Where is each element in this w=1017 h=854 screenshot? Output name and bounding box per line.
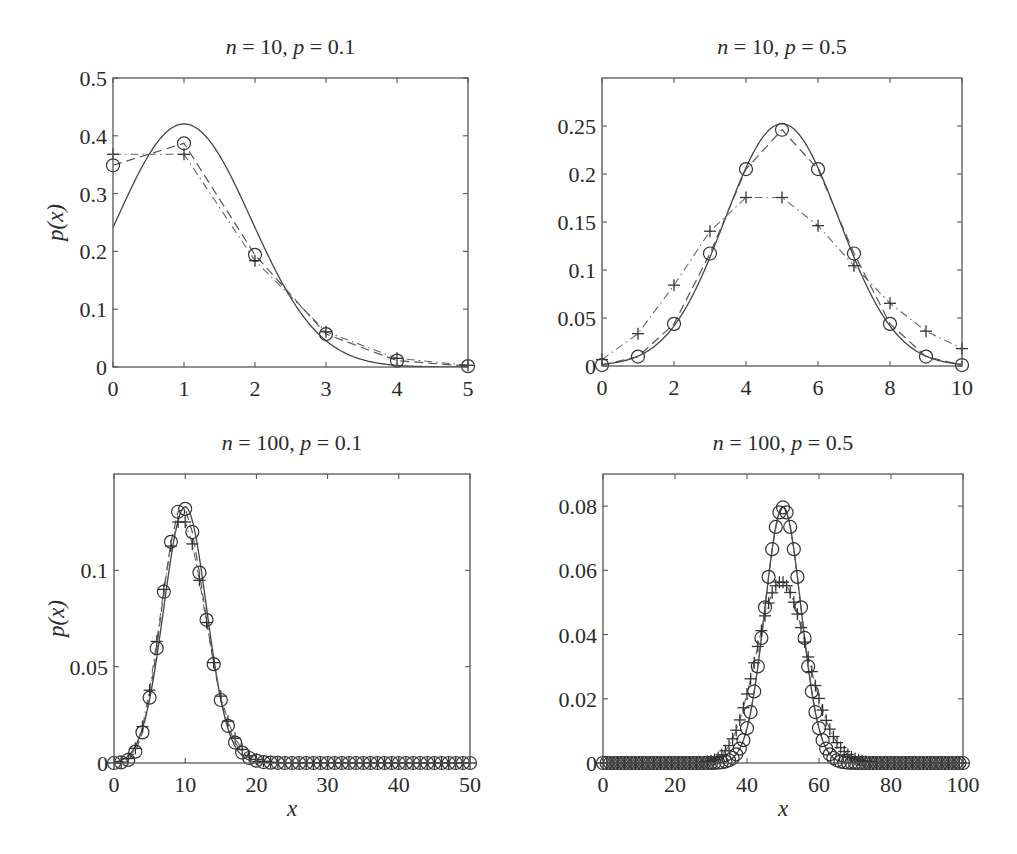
y-tick-label: 0.04 — [559, 623, 598, 648]
x-tick-label: 0 — [597, 375, 608, 400]
binomial-line — [113, 143, 468, 366]
y-tick-label: 0 — [585, 354, 596, 379]
y-tick-label: 0.06 — [559, 558, 598, 583]
x-tick-label: 4 — [741, 375, 752, 400]
axes-frame — [114, 474, 470, 763]
y-axis-label: p(x) — [44, 600, 69, 639]
x-tick-label: 100 — [947, 772, 980, 797]
y-tick-label: 0.05 — [70, 655, 109, 680]
x-axis-label: x — [777, 796, 789, 821]
x-tick-label: 30 — [317, 772, 339, 797]
normal-curve — [602, 124, 962, 365]
y-tick-label: 0.2 — [80, 239, 108, 264]
normal-curve — [114, 507, 470, 763]
x-tick-label: 20 — [664, 772, 686, 797]
markers — [597, 501, 970, 770]
x-tick-label: 80 — [880, 772, 902, 797]
y-tick-label: 0 — [586, 751, 597, 776]
panel-n10-p0.1: 01234500.10.20.30.40.5n = 10, p = 0.1p(x… — [43, 34, 475, 401]
x-tick-label: 5 — [463, 376, 474, 401]
poisson-line — [602, 198, 962, 360]
normal-curve — [113, 124, 468, 367]
y-tick-label: 0.1 — [81, 558, 109, 583]
y-tick-label: 0.05 — [558, 306, 597, 331]
panel-n100-p0.1: 0102030405000.050.1n = 100, p = 0.1p(x)x — [44, 430, 481, 821]
markers — [108, 502, 477, 769]
axes-frame — [113, 78, 468, 367]
x-tick-label: 4 — [392, 376, 403, 401]
x-tick-label: 0 — [109, 772, 120, 797]
y-tick-label: 0.25 — [558, 114, 597, 139]
poisson-line — [113, 154, 468, 365]
y-tick-label: 0.3 — [80, 182, 108, 207]
x-tick-label: 40 — [736, 772, 758, 797]
x-tick-label: 40 — [388, 772, 410, 797]
y-tick-label: 0.1 — [569, 258, 597, 283]
y-tick-label: 0.02 — [559, 687, 598, 712]
poisson-line — [114, 522, 470, 763]
x-axis-label: x — [286, 796, 298, 821]
panel-title: n = 100, p = 0.5 — [713, 430, 853, 455]
x-tick-label: 50 — [459, 772, 481, 797]
x-tick-label: 0 — [598, 772, 609, 797]
panel-n10-p0.5: 024681000.050.10.150.20.25n = 10, p = 0.… — [558, 34, 974, 400]
panel-n100-p0.5: 02040608010000.020.040.060.08n = 100, p … — [559, 430, 980, 821]
y-tick-label: 0.2 — [569, 162, 597, 187]
binomial-line — [603, 507, 963, 763]
x-tick-label: 10 — [951, 375, 973, 400]
x-tick-label: 0 — [108, 376, 119, 401]
x-tick-label: 6 — [813, 375, 824, 400]
markers — [107, 137, 475, 373]
x-tick-label: 20 — [245, 772, 267, 797]
x-tick-label: 2 — [669, 375, 680, 400]
markers — [596, 123, 969, 371]
panel-title: n = 10, p = 0.5 — [717, 34, 846, 59]
y-axis-label: p(x) — [43, 204, 68, 243]
normal-curve — [603, 507, 963, 763]
y-tick-label: 0.5 — [80, 66, 108, 91]
x-tick-label: 3 — [321, 376, 332, 401]
x-tick-label: 1 — [179, 376, 190, 401]
y-tick-label: 0.4 — [80, 124, 108, 149]
circle-marker — [179, 502, 192, 515]
y-tick-label: 0 — [96, 355, 107, 380]
y-tick-label: 0 — [97, 751, 108, 776]
y-tick-label: 0.08 — [559, 494, 598, 519]
y-tick-label: 0.15 — [558, 210, 597, 235]
x-tick-label: 2 — [250, 376, 261, 401]
binomial-line — [602, 130, 962, 365]
panel-title: n = 100, p = 0.1 — [222, 430, 362, 455]
axes-frame — [602, 78, 962, 366]
x-tick-label: 10 — [174, 772, 196, 797]
x-tick-label: 60 — [808, 772, 830, 797]
poisson-line — [603, 582, 963, 763]
figure: 01234500.10.20.30.40.5n = 10, p = 0.1p(x… — [0, 0, 1017, 854]
x-tick-label: 8 — [885, 375, 896, 400]
y-tick-label: 0.1 — [80, 297, 108, 322]
panel-title: n = 10, p = 0.1 — [226, 34, 355, 59]
